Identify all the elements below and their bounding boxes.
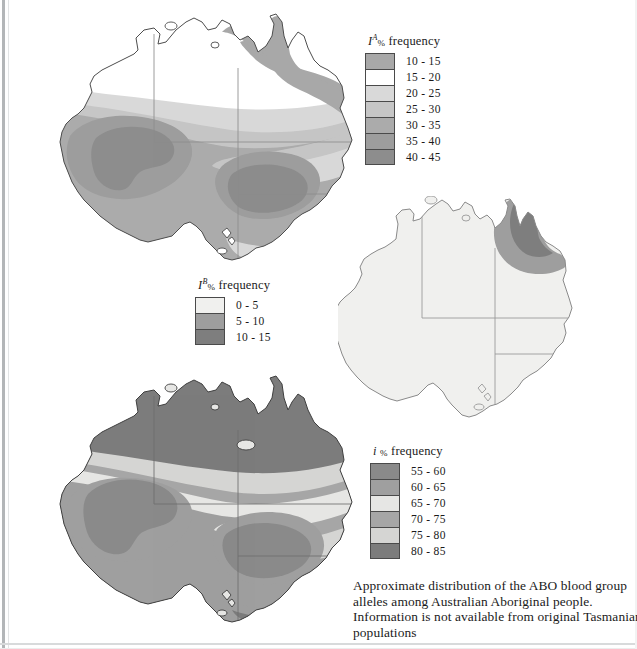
legend-label: 65 - 70 (411, 497, 446, 509)
legend-swatch (365, 149, 395, 165)
map-allele-ia (26, 8, 358, 270)
legend-swatch (365, 85, 395, 101)
page-bottom-edge (0, 643, 637, 645)
legend-item: 25 - 30 (365, 101, 441, 117)
legend-swatch (365, 133, 395, 149)
legend-swatch (195, 297, 225, 313)
legend-label: 35 - 40 (406, 135, 441, 147)
legend-ib-title: IB% frequency (195, 277, 271, 293)
legend-label: 60 - 65 (411, 481, 446, 493)
map-i-svg (26, 370, 358, 632)
legend-item: 15 - 20 (365, 69, 441, 85)
legend-label: 55 - 60 (411, 465, 446, 477)
legend-i-percent: % (380, 448, 388, 458)
page-edge-artifact (2, 0, 5, 649)
legend-label: 5 - 10 (236, 315, 265, 327)
caption-line-2: alleles among Australian Aboriginal peop… (353, 594, 635, 610)
caption-line-3: Information is not available from origin… (353, 609, 635, 625)
legend-item: 20 - 25 (365, 85, 441, 101)
legend-swatch (370, 495, 400, 511)
legend-swatch (370, 463, 400, 479)
legend-swatch (370, 527, 400, 543)
page-edge-artifact-inner (8, 0, 9, 649)
legend-ib-swatches: 0 - 5 5 - 10 10 - 15 (195, 297, 271, 345)
legend-item: 10 - 15 (195, 329, 271, 345)
legend-label: 25 - 30 (406, 103, 441, 115)
legend-item: 30 - 35 (365, 117, 441, 133)
legend-swatch (195, 313, 225, 329)
legend-label: 75 - 80 (411, 529, 446, 541)
legend-item: 5 - 10 (195, 313, 271, 329)
legend-item: 80 - 85 (370, 543, 446, 559)
legend-i-swatches: 55 - 60 60 - 65 65 - 70 70 - 75 75 - 80 … (370, 463, 446, 559)
figure-page: IA% frequency 10 - 15 15 - 20 20 - 25 25… (0, 0, 637, 649)
legend-ib: IB% frequency 0 - 5 5 - 10 10 - 15 (195, 277, 271, 345)
map-allele-ib (338, 196, 634, 436)
legend-label: 30 - 35 (406, 119, 441, 131)
legend-item: 55 - 60 (370, 463, 446, 479)
legend-swatch (195, 329, 225, 345)
legend-ia: IA% frequency 10 - 15 15 - 20 20 - 25 25… (365, 33, 441, 165)
legend-swatch (365, 53, 395, 69)
legend-label: 10 - 15 (406, 55, 441, 67)
legend-label: 70 - 75 (411, 513, 446, 525)
legend-swatch (370, 511, 400, 527)
legend-item: 10 - 15 (365, 53, 441, 69)
caption-line-1: Approximate distribution of the ABO bloo… (353, 578, 635, 594)
legend-label: 0 - 5 (236, 299, 259, 311)
legend-swatch (370, 479, 400, 495)
legend-item: 35 - 40 (365, 133, 441, 149)
legend-item: 0 - 5 (195, 297, 271, 313)
legend-i-title-rest: frequency (388, 444, 443, 458)
map-ib-svg (338, 196, 634, 436)
legend-i: i % frequency 55 - 60 60 - 65 65 - 70 70… (370, 444, 446, 559)
legend-item: 65 - 70 (370, 495, 446, 511)
legend-label: 20 - 25 (406, 87, 441, 99)
legend-swatch (365, 69, 395, 85)
legend-label: 80 - 85 (411, 545, 446, 557)
legend-ib-title-rest: frequency (215, 278, 270, 292)
caption-line-4: populations (353, 625, 635, 641)
legend-ia-title-rest: frequency (385, 34, 440, 48)
legend-item: 60 - 65 (370, 479, 446, 495)
legend-ia-swatches: 10 - 15 15 - 20 20 - 25 25 - 30 30 - 35 … (365, 53, 441, 165)
legend-item: 70 - 75 (370, 511, 446, 527)
legend-label: 15 - 20 (406, 71, 441, 83)
legend-i-title: i % frequency (370, 444, 446, 459)
figure-caption: Approximate distribution of the ABO bloo… (353, 578, 635, 640)
legend-label: 40 - 45 (406, 151, 441, 163)
map-ia-svg (26, 8, 358, 270)
legend-swatch (365, 117, 395, 133)
map-allele-i (26, 370, 358, 632)
legend-swatch (370, 543, 400, 559)
legend-ia-title: IA% frequency (365, 33, 441, 49)
legend-item: 75 - 80 (370, 527, 446, 543)
legend-label: 10 - 15 (236, 331, 271, 343)
legend-swatch (365, 101, 395, 117)
legend-item: 40 - 45 (365, 149, 441, 165)
